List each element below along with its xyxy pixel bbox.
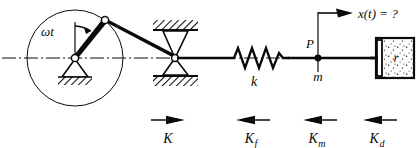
force-label: Km [307,131,325,148]
crank-pivot-joint [71,54,78,61]
crank-arm [72,19,108,59]
spring-element: k [229,48,289,89]
force-label-base: K [162,131,173,146]
mass-label: m [313,69,322,84]
force-arrowhead [166,116,185,124]
spring-stiffness-label: k [251,74,258,89]
force-k: K [151,116,185,146]
force-kf: Kf [236,116,270,148]
crank-angle-label: ωt [41,24,54,39]
damper-element: r [370,38,414,78]
slider-guide-upper-hatch [153,20,198,30]
displacement-indicator: x(t) = ? [318,6,398,21]
force-label-base: K [244,131,255,146]
force-label: Kf [244,131,259,148]
force-label-subscript: m [318,138,325,148]
crank-pin-joint [101,16,108,23]
force-arrowhead [303,116,322,124]
mass-point-group: P m [305,12,323,84]
slider-guide-lower-hatch [153,76,198,86]
force-arrow-row: KKfKmKd [151,116,397,148]
force-label-base: K [307,131,318,146]
force-label-base: K [369,131,380,146]
force-km: Km [303,116,337,148]
displacement-arrowhead [336,9,353,18]
mechanism-diagram: ωt k [0,0,418,148]
force-kd: Kd [363,116,397,148]
force-arrowhead [236,116,255,124]
displacement-query-label: x(t) = ? [357,6,398,21]
force-label: Kd [369,131,386,148]
force-label-subscript: d [379,138,385,148]
crank-ground-hatch [58,77,92,85]
diagram-canvas: ωt k [0,0,418,148]
slider-guide-assembly [153,20,198,86]
point-p-label: P [305,36,314,51]
force-label: K [162,131,173,146]
mass-point-marker [315,55,322,62]
force-label-subscript: f [255,138,259,148]
force-arrowhead [363,116,382,124]
